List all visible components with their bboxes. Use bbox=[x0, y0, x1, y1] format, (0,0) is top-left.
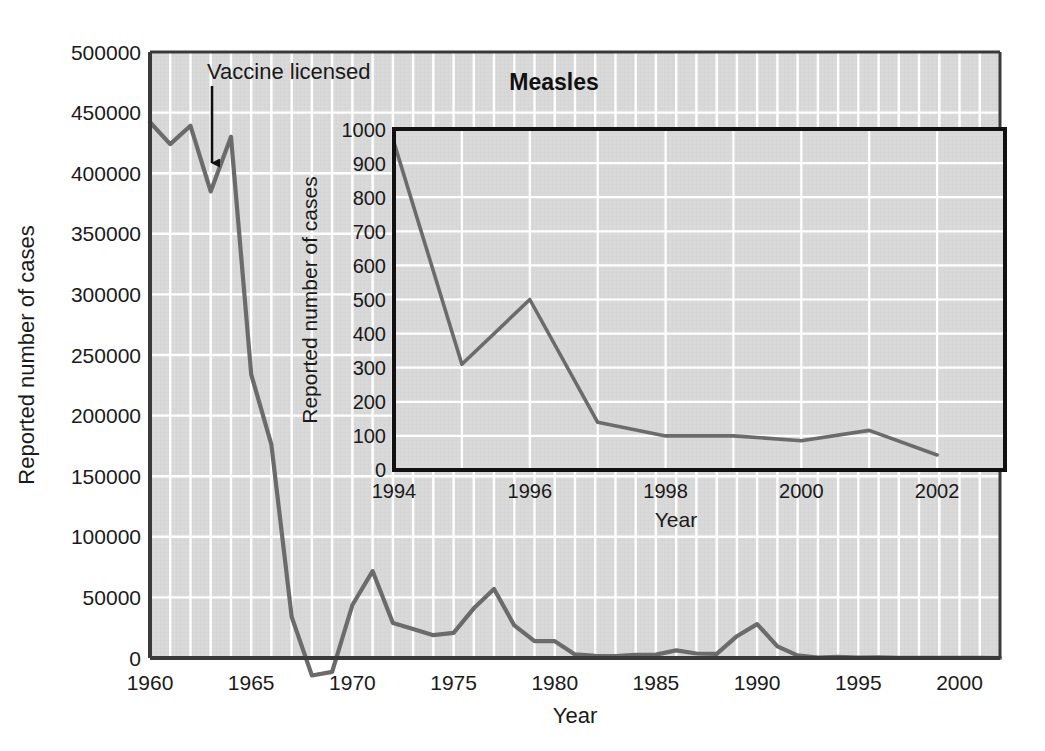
main-x-tick: 1970 bbox=[329, 671, 376, 694]
inset-plot: 1000 900 800 700 600 500 400 300 200 100… bbox=[298, 119, 1005, 531]
main-x-tick: 1975 bbox=[430, 671, 477, 694]
inset-y-tick: 0 bbox=[375, 459, 386, 481]
main-x-tick: 1990 bbox=[734, 671, 781, 694]
inset-x-tick: 2002 bbox=[915, 480, 960, 502]
main-y-tick: 450000 bbox=[71, 101, 141, 124]
main-x-tick: 1995 bbox=[835, 671, 882, 694]
main-y-tick: 250000 bbox=[71, 344, 141, 367]
inset-y-tick: 300 bbox=[353, 357, 386, 379]
main-y-tick: 300000 bbox=[71, 283, 141, 306]
main-y-tick: 500000 bbox=[71, 41, 141, 64]
inset-x-axis-title: Year bbox=[655, 508, 697, 531]
inset-x-tick: 1998 bbox=[643, 480, 688, 502]
inset-y-tick: 900 bbox=[353, 153, 386, 175]
main-y-tick: 150000 bbox=[71, 465, 141, 488]
chart-title: Measles bbox=[509, 69, 599, 95]
main-x-tick: 1965 bbox=[228, 671, 275, 694]
inset-x-tick: 1996 bbox=[508, 480, 553, 502]
vaccine-licensed-label: Vaccine licensed bbox=[207, 59, 370, 84]
main-y-tick: 50000 bbox=[83, 586, 141, 609]
inset-x-tick: 1994 bbox=[372, 480, 417, 502]
inset-x-tick: 2000 bbox=[779, 480, 824, 502]
inset-y-tick: 500 bbox=[353, 289, 386, 311]
inset-y-axis-title: Reported number of cases bbox=[298, 176, 321, 423]
main-x-tick: 1960 bbox=[127, 671, 174, 694]
main-y-tick: 200000 bbox=[71, 404, 141, 427]
inset-y-tick: 100 bbox=[353, 425, 386, 447]
chart-svg: Vaccine licensed 500000 450000 400000 35… bbox=[0, 0, 1045, 751]
inset-y-tick: 400 bbox=[353, 323, 386, 345]
inset-y-tick: 200 bbox=[353, 391, 386, 413]
main-y-tick: 400000 bbox=[71, 162, 141, 185]
inset-y-tick: 600 bbox=[353, 255, 386, 277]
main-y-tick: 350000 bbox=[71, 222, 141, 245]
measles-incidence-figure: Vaccine licensed 500000 450000 400000 35… bbox=[0, 0, 1045, 751]
main-x-tick: 2000 bbox=[936, 671, 983, 694]
inset-y-tick: 800 bbox=[353, 187, 386, 209]
main-y-tick: 100000 bbox=[71, 525, 141, 548]
inset-y-tick: 700 bbox=[353, 221, 386, 243]
main-x-tick-labels: 1960 1965 1970 1975 1980 1985 1990 1995 … bbox=[127, 671, 983, 694]
main-y-tick: 0 bbox=[129, 647, 141, 670]
inset-y-tick: 1000 bbox=[342, 119, 387, 141]
main-y-axis-title: Reported number of cases bbox=[14, 225, 39, 484]
main-x-axis-title: Year bbox=[553, 703, 597, 728]
main-x-tick: 1980 bbox=[531, 671, 578, 694]
main-x-tick: 1985 bbox=[633, 671, 680, 694]
